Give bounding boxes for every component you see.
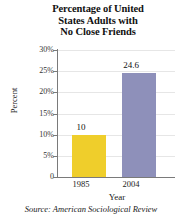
- y-tick-label-30: 30%: [18, 46, 54, 54]
- y-tick-label-10: 10%: [18, 131, 54, 139]
- x-tick-label-1985: 1985: [58, 180, 104, 189]
- x-axis-line: [57, 177, 175, 178]
- y-tick-label-20: 20%: [18, 88, 54, 96]
- x-tick-label-2004: 2004: [108, 180, 154, 189]
- gridline-20: [58, 92, 175, 93]
- bar-1985[interactable]: [72, 135, 106, 177]
- bar-value-label-1985: 10: [58, 123, 104, 132]
- gridline-15: [58, 114, 175, 115]
- bar-chart-figure: Percentage of United States Adults with …: [0, 0, 182, 220]
- y-tick-label-5: 5%: [18, 152, 54, 160]
- gridline-30: [58, 50, 175, 51]
- bar-2004[interactable]: [122, 73, 156, 177]
- y-tick-label-25: 25%: [18, 67, 54, 75]
- x-axis-title: Year: [58, 192, 176, 202]
- gridline-25: [58, 71, 175, 72]
- y-tick-label-15: 15%: [18, 110, 54, 118]
- source-note: Source: American Sociological Review: [0, 205, 182, 214]
- bar-value-label-2004: 24.6: [108, 61, 154, 70]
- y-axis-title: Percent: [10, 71, 19, 131]
- y-tick-label-0: 0: [18, 173, 54, 181]
